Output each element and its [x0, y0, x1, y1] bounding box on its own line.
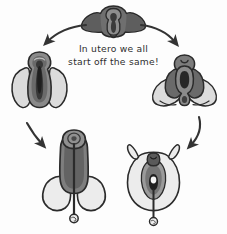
female-early-lower-opening — [182, 96, 187, 103]
female-final-base-opening — [150, 218, 158, 226]
male-final-glans-center — [71, 136, 76, 141]
genital-development-diagram: In utero we all start off the same! — [0, 0, 227, 234]
male-early-core-line — [37, 66, 42, 94]
diagram-canvas — [0, 0, 227, 234]
female-early-opening — [180, 71, 189, 88]
female-final-opening-highlight — [151, 177, 157, 184]
